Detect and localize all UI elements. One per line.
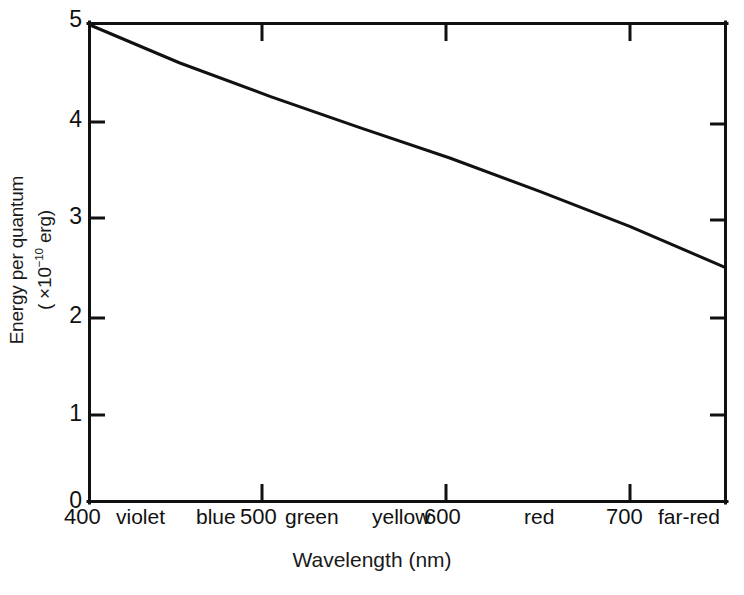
plot-svg	[88, 22, 733, 509]
y-tick-marks-right	[710, 124, 726, 415]
y-tick-label-3: 3	[56, 205, 82, 228]
x-band-label-red: red	[524, 506, 554, 527]
x-tick-label-700: 700	[606, 506, 643, 528]
y-tick-label-1: 1	[56, 402, 82, 425]
y-axis-title-exponent: −10	[32, 248, 45, 267]
y-tick-marks-left	[90, 122, 106, 415]
y-axis-title-line1: Energy per quantum	[6, 176, 28, 345]
x-band-label-far-red: far-red	[658, 506, 720, 527]
x-band-label-violet: violet	[116, 506, 165, 527]
y-tick-label-2: 2	[56, 304, 82, 327]
x-axis-title: Wavelength (nm)	[0, 548, 744, 572]
y-tick-label-5: 5	[56, 8, 82, 31]
x-tick-label-group: 400 violet blue 500 green yellow 600 red…	[0, 506, 744, 540]
x-band-label-yellow: yellow	[372, 506, 430, 527]
x-band-label-blue: blue	[196, 506, 236, 527]
x-tick-label-600: 600	[424, 506, 461, 528]
x-tick-label-400: 400	[64, 506, 101, 528]
x-band-label-green: green	[285, 506, 339, 527]
axis-frame	[88, 22, 727, 503]
x-tick-label-500: 500	[240, 506, 277, 528]
figure-energy-per-quantum: Energy per quantum ( ×10−10 erg) 5 4 3 2…	[0, 0, 744, 595]
y-tick-label-4: 4	[56, 108, 82, 131]
data-series-energy-per-quantum	[90, 25, 725, 267]
x-tick-marks-bottom	[262, 484, 630, 502]
plot-area	[88, 22, 727, 503]
x-tick-marks-top	[262, 24, 630, 42]
